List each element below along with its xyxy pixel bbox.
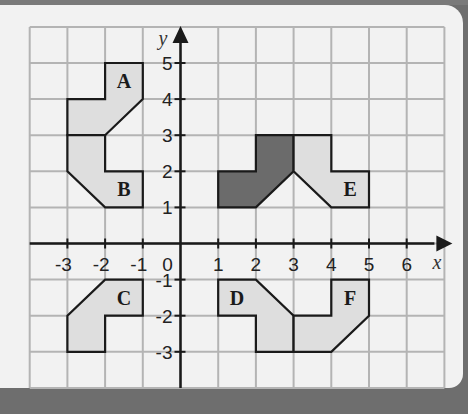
shape-label: D (230, 287, 244, 309)
y-tick-label: 4 (162, 89, 173, 110)
shape-polygon (294, 280, 369, 352)
shape-label: A (117, 70, 132, 92)
x-tick-label: -1 (130, 254, 147, 275)
shape-label: C (117, 287, 131, 309)
x-tick-label: -3 (55, 254, 72, 275)
shape-polygon (67, 135, 142, 207)
x-tick-label: 1 (213, 254, 224, 275)
y-axis-arrow-icon (173, 26, 189, 43)
origin-label: 0 (162, 254, 173, 275)
x-tick-label: -2 (93, 254, 110, 275)
shape-label: B (117, 178, 130, 200)
shape-c: C (67, 280, 142, 352)
shape-d: D (218, 280, 293, 352)
shape-polygon (294, 135, 369, 207)
y-axis-label: y (157, 27, 168, 50)
y-tick-label: 5 (162, 53, 173, 74)
x-axis-label: x (431, 251, 441, 273)
shape-polygon (67, 280, 142, 352)
shape-label: E (343, 178, 356, 200)
shape-e: E (294, 135, 369, 207)
x-tick-label: 3 (288, 254, 299, 275)
y-tick-label: -3 (156, 342, 173, 363)
y-tick-label: 3 (162, 125, 173, 146)
shape-label: F (344, 287, 356, 309)
shape-f: F (294, 280, 369, 352)
x-tick-label: 6 (401, 254, 412, 275)
shape-polygon (218, 135, 293, 207)
shape-b: B (67, 135, 142, 207)
y-tick-label: -2 (156, 306, 173, 327)
coordinate-grid: ABCDEF -3-2-112345654321-1-2-3 x y 0 (0, 0, 468, 414)
shape-a: A (67, 63, 142, 135)
shape-polygon (67, 63, 142, 135)
x-tick-label: 2 (251, 254, 262, 275)
y-tick-label: 2 (162, 161, 173, 182)
x-tick-label: 5 (364, 254, 375, 275)
shape-object (218, 135, 293, 207)
y-tick-label: 1 (162, 197, 173, 218)
x-tick-label: 4 (326, 254, 337, 275)
